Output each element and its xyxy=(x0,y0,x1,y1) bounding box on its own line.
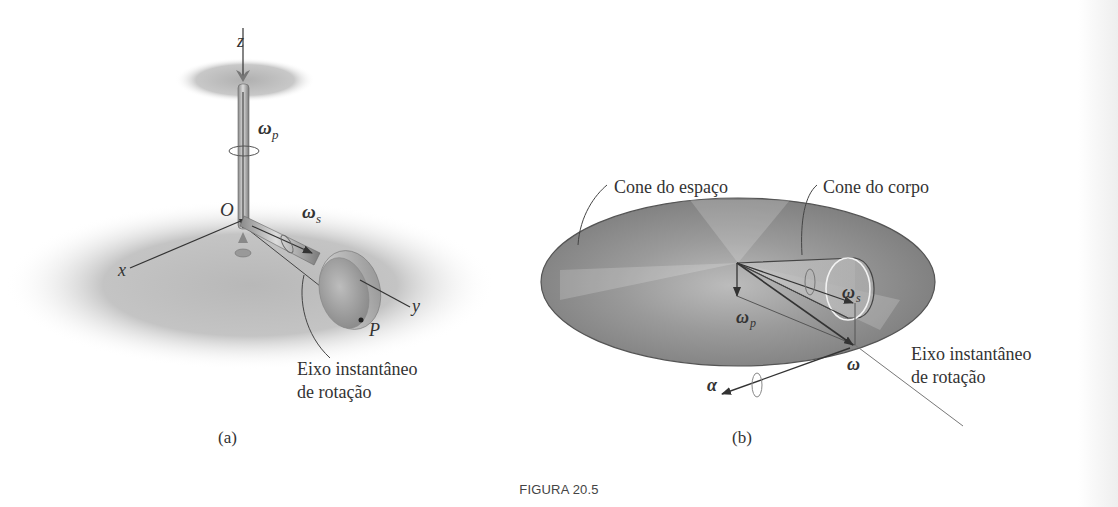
panel-a-label: (a) xyxy=(218,428,237,448)
svg-text:ω: ω xyxy=(736,307,749,327)
alpha-label: α xyxy=(707,375,718,395)
point-p-label: P xyxy=(368,320,380,340)
origin-label: O xyxy=(220,199,234,220)
panel-b-cones: Cone do espaço Cone do corpo ω s ω p ω α… xyxy=(541,177,1031,426)
svg-text:p: p xyxy=(749,316,756,330)
svg-text:ω: ω xyxy=(842,282,855,302)
alpha-rotation-indicator-icon xyxy=(752,373,762,397)
panel-a-gyroscope: z x y O P ω p ω s Eixo instantâneo de ro… xyxy=(5,28,495,402)
point-p-marker xyxy=(359,318,364,323)
svg-text:s: s xyxy=(316,211,321,226)
x-axis-label: x xyxy=(117,260,126,280)
space-cone-label: Cone do espaço xyxy=(614,177,728,197)
svg-text:p: p xyxy=(271,127,279,142)
body-cone-label: Cone do corpo xyxy=(823,177,929,197)
omega-label-b: ω xyxy=(847,354,860,374)
figure-caption: FIGURA 20.5 xyxy=(0,482,1118,497)
figure-canvas: z x y O P ω p ω s Eixo instantâneo de ro… xyxy=(0,0,1118,507)
omega-p-label: ω p xyxy=(258,117,279,142)
panel-b-label: (b) xyxy=(732,428,752,448)
pivot-base xyxy=(235,249,251,257)
z-axis-label: z xyxy=(236,31,244,51)
svg-text:ω: ω xyxy=(302,201,316,222)
y-axis-label: y xyxy=(410,296,420,316)
instantaneous-axis-label-a-line1: Eixo instantâneo xyxy=(297,359,417,379)
instantaneous-axis-label-a-line2: de rotação xyxy=(297,382,371,402)
instantaneous-axis-label-b-line2: de rotação xyxy=(911,367,985,387)
svg-text:ω: ω xyxy=(258,117,272,138)
svg-text:s: s xyxy=(856,291,861,305)
instantaneous-axis-label-b-line1: Eixo instantâneo xyxy=(911,344,1031,364)
